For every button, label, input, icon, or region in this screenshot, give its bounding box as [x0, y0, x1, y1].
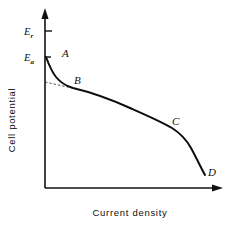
- polarization-curve: [46, 57, 205, 175]
- point-label-A: A: [61, 47, 69, 59]
- point-label-B: B: [74, 74, 81, 86]
- y-tick-label-Ea: Ea: [23, 52, 34, 66]
- y-axis-title: Cell potential: [6, 88, 17, 153]
- point-label-D: D: [207, 166, 216, 178]
- x-axis-title: Current density: [93, 207, 168, 218]
- polarization-chart-svg: Er Ea A B C D Current density Cell poten…: [0, 0, 241, 227]
- point-label-C: C: [172, 115, 180, 127]
- x-axis-arrow-icon: [212, 184, 223, 191]
- y-axis-arrow-icon: [41, 8, 48, 19]
- figure-root: Er Ea A B C D Current density Cell poten…: [0, 0, 241, 227]
- y-tick-label-Er: Er: [23, 26, 33, 40]
